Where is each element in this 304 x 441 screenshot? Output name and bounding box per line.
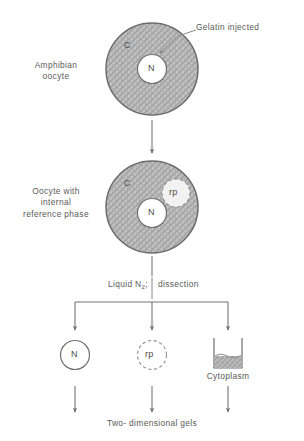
diagram-canvas: Amphibian oocyte Gelatin injected C N Oo…: [0, 0, 304, 441]
product-beaker-caption: Cytoplasm: [189, 371, 267, 382]
branch-bus: [75, 302, 228, 330]
product-nucleus-label: N: [71, 349, 78, 359]
stage1-left-label: Amphibian oocyte: [8, 60, 104, 83]
product-reference-phase-label: rp: [145, 349, 154, 359]
stage2-cytoplasm-label: C: [124, 178, 131, 188]
gelatin-callout-label: Gelatin injected: [196, 22, 300, 33]
product-beaker: [214, 338, 242, 368]
arrows-to-gels: [75, 386, 228, 412]
process-step-liquid-n: Liquid N: [108, 279, 142, 289]
stage1-cytoplasm-label: C: [124, 40, 131, 50]
stage1-nucleus-label: N: [148, 63, 155, 73]
stage2-left-label: Oocyte with internal reference phase: [4, 186, 108, 220]
process-step-right: dissection: [158, 279, 228, 290]
stage2-reference-phase-label: rp: [169, 187, 178, 197]
footer-label: Two- dimensional gels: [62, 418, 242, 429]
process-step-left: Liquid N2;: [84, 279, 148, 290]
process-step-semicolon: ;: [145, 279, 148, 289]
stage2-nucleus-label: N: [148, 207, 155, 217]
